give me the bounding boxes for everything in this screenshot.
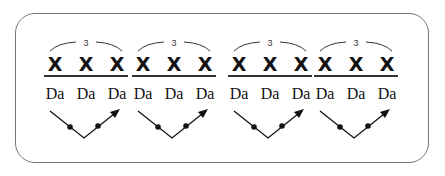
note-row: X X X [130,53,218,75]
stroke-motion-arrow-icon [318,108,394,144]
x-note: X [347,53,365,75]
tuplet-number: 3 [42,38,130,48]
tuplet-number: 3 [312,38,400,48]
syllable: Da [372,85,402,103]
triplet-group: 3 X X X Da Da Da [42,0,130,176]
beam-line [314,75,398,77]
triplet-group: 3 X X X Da Da Da [130,0,218,176]
syllable: Da [71,85,101,103]
beam-line [132,75,216,77]
x-note: X [261,53,279,75]
syllable: Da [40,85,70,103]
note-row: X X X [42,53,130,75]
syllable-row: Da Da Da [310,85,402,103]
syllable-row: Da Da Da [224,85,316,103]
x-note: X [165,53,183,75]
stroke-motion-arrow-icon [48,108,124,144]
x-note: X [230,53,248,75]
tuplet-number: 3 [130,38,218,48]
beam-line [44,75,128,77]
x-note: X [292,53,310,75]
syllable: Da [159,85,189,103]
x-note: X [46,53,64,75]
triplet-group: 3 X X X Da Da Da [226,0,314,176]
x-note: X [378,53,396,75]
syllable: Da [128,85,158,103]
syllable: Da [341,85,371,103]
syllable-row: Da Da Da [128,85,220,103]
x-note: X [77,53,95,75]
stroke-motion-arrow-icon [232,108,308,144]
note-row: X X X [226,53,314,75]
note-row: X X X [312,53,400,75]
syllable: Da [310,85,340,103]
syllable: Da [255,85,285,103]
syllable: Da [190,85,220,103]
syllable: Da [224,85,254,103]
beam-line [228,75,312,77]
x-note: X [196,53,214,75]
x-note: X [134,53,152,75]
stroke-motion-arrow-icon [136,108,212,144]
tuplet-number: 3 [226,38,314,48]
triplet-group: 3 X X X Da Da Da [312,0,400,176]
syllable-row: Da Da Da [40,85,132,103]
x-note: X [316,53,334,75]
x-note: X [108,53,126,75]
